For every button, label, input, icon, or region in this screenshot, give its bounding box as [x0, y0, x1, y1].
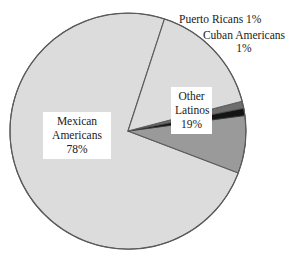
callout-cuban-americans: Cuban Americans 1%: [199, 29, 289, 55]
slice-label-mexican-value: 78%: [47, 142, 107, 156]
slice-label-other-line1: Other: [175, 89, 208, 103]
slice-label-other-line2: Latinos: [175, 103, 208, 117]
slice-label-mexican-americans: Mexican Americans 78%: [43, 112, 111, 159]
callout-puerto-ricans: Puerto Ricans 1%: [179, 13, 261, 26]
slice-label-other-value: 19%: [175, 117, 208, 131]
slice-label-mexican-line1: Mexican: [47, 114, 107, 128]
callout-puerto-ricans-text: Puerto Ricans 1%: [179, 13, 261, 25]
pie-chart-page: Puerto Ricans 1% Cuban Americans 1% Mexi…: [0, 0, 291, 266]
slice-label-other-latinos: Other Latinos 19%: [171, 87, 212, 134]
slice-label-mexican-line2: Americans: [47, 128, 107, 142]
callout-cuban-americans-value: 1%: [199, 42, 289, 55]
callout-cuban-americans-name: Cuban Americans: [199, 29, 289, 42]
